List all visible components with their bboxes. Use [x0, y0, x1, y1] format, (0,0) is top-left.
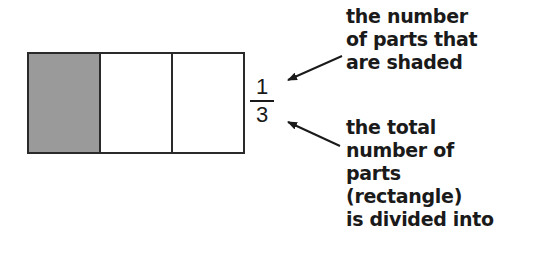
arrow-to-denominator-icon	[288, 122, 340, 146]
denominator-annotation: the total number of parts (rectangle) is…	[346, 116, 494, 231]
numerator-annotation: the number of parts that are shaded	[346, 5, 477, 74]
arrow-to-numerator-icon	[288, 56, 342, 80]
